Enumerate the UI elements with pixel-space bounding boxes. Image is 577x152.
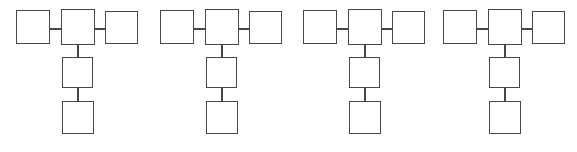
node-center[interactable]: [348, 9, 382, 45]
node-left[interactable]: [443, 10, 477, 44]
edge-left-center: [336, 28, 349, 30]
node-center[interactable]: [205, 9, 239, 45]
node-middle[interactable]: [349, 57, 380, 88]
edge-center-middle: [504, 44, 506, 58]
node-left[interactable]: [16, 10, 50, 44]
edge-left-center: [476, 28, 489, 30]
edge-left-center: [49, 28, 62, 30]
edge-center-right: [238, 28, 250, 30]
edge-left-center: [193, 28, 206, 30]
node-diagram-group-4: [443, 0, 577, 152]
node-center[interactable]: [488, 9, 522, 45]
node-right[interactable]: [249, 11, 282, 44]
node-center[interactable]: [61, 9, 95, 45]
node-bottom[interactable]: [62, 101, 94, 134]
edge-middle-bottom: [77, 87, 79, 102]
node-diagram-group-1: [16, 0, 151, 152]
node-middle[interactable]: [206, 57, 237, 88]
edge-middle-bottom: [364, 87, 366, 102]
node-right[interactable]: [105, 11, 138, 44]
edge-middle-bottom: [221, 87, 223, 102]
node-middle[interactable]: [489, 57, 520, 88]
node-bottom[interactable]: [349, 101, 381, 134]
node-diagram-group-2: [160, 0, 295, 152]
node-right[interactable]: [532, 11, 565, 44]
edge-center-middle: [364, 44, 366, 58]
node-left[interactable]: [303, 10, 337, 44]
node-left[interactable]: [160, 10, 194, 44]
node-middle[interactable]: [62, 57, 93, 88]
node-bottom[interactable]: [206, 101, 238, 134]
edge-middle-bottom: [504, 87, 506, 102]
edge-center-middle: [77, 44, 79, 58]
edge-center-right: [521, 28, 533, 30]
edge-center-middle: [221, 44, 223, 58]
edge-center-right: [381, 28, 393, 30]
edge-center-right: [94, 28, 106, 30]
node-right[interactable]: [392, 11, 425, 44]
node-bottom[interactable]: [489, 101, 521, 134]
diagram-canvas: [0, 0, 577, 152]
node-diagram-group-3: [303, 0, 438, 152]
